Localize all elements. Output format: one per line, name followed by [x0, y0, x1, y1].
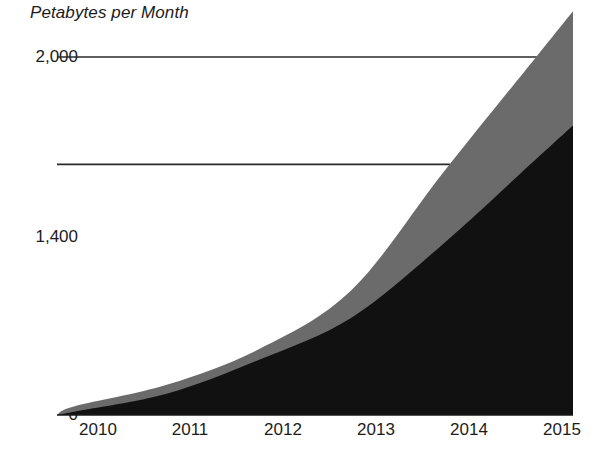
x-tick-label-2015: 2015 — [543, 421, 581, 438]
area-chart-svg — [57, 57, 573, 415]
plot-area — [57, 57, 573, 415]
x-tick-label-2013: 2013 — [357, 421, 395, 438]
chart-figure: Petabytes per Month 2,000 1,400 0 2010 2… — [0, 0, 604, 463]
x-tick-label-2011: 2011 — [172, 421, 209, 438]
x-tick-label-2012: 2012 — [264, 421, 302, 438]
x-tick-label-2014: 2014 — [450, 421, 488, 438]
stacked-areas — [57, 11, 573, 415]
x-tick-label-2010: 2010 — [79, 421, 117, 438]
x-axis-tick-labels: 2010 2011 2012 2013 2014 2015 — [57, 421, 573, 449]
